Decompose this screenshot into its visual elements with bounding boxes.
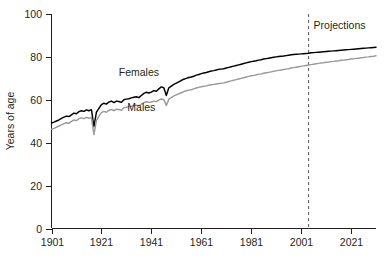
y-axis-title: Years of age bbox=[4, 92, 16, 151]
y-tick-label: 100 bbox=[24, 8, 42, 20]
y-tick-label: 0 bbox=[36, 223, 42, 235]
x-tick-label: 2001 bbox=[290, 236, 314, 248]
series-label-males: Males bbox=[127, 101, 155, 113]
life-expectancy-chart: 020406080100 190119211941196119812001202… bbox=[0, 0, 385, 260]
y-tick-label: 80 bbox=[30, 51, 42, 63]
x-tick-label: 1901 bbox=[41, 236, 65, 248]
data-series-group bbox=[52, 47, 377, 134]
y-tick-label: 20 bbox=[30, 180, 42, 192]
y-tick-label: 60 bbox=[30, 94, 42, 106]
x-tick-label: 1941 bbox=[140, 236, 164, 248]
series-label-females: Females bbox=[119, 66, 159, 78]
x-tick-label: 1961 bbox=[190, 236, 214, 248]
x-axis-ticks bbox=[53, 229, 352, 235]
y-tick-label: 40 bbox=[30, 137, 42, 149]
y-axis-tick-labels: 020406080100 bbox=[24, 8, 42, 235]
series-line-males bbox=[52, 56, 377, 135]
x-axis-tick-labels: 1901192119411961198120012021 bbox=[41, 236, 364, 248]
chart-annotations: Projections bbox=[314, 19, 366, 31]
projection-annotation-label: Projections bbox=[314, 19, 366, 31]
x-tick-label: 1921 bbox=[90, 236, 114, 248]
x-axis: 1901192119411961198120012021 bbox=[41, 229, 376, 249]
chart-canvas: 020406080100 190119211941196119812001202… bbox=[0, 0, 385, 260]
series-inline-labels: FemalesMales bbox=[119, 66, 159, 112]
x-tick-label: 1981 bbox=[240, 236, 264, 248]
y-axis: 020406080100 bbox=[24, 8, 51, 235]
y-axis-ticks bbox=[46, 15, 52, 230]
x-tick-label: 2021 bbox=[340, 236, 364, 248]
